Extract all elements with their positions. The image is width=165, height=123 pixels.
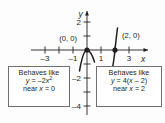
callout-left-near: near (23, 84, 39, 93)
x-tick-label-neg3: –3 (41, 54, 50, 63)
x-tick-label-1: 1 (99, 54, 104, 63)
point-marker-two-zero (112, 47, 117, 52)
callout-box-right: Behaves like y = 4(x – 2) near x = 2 (96, 66, 162, 107)
y-tick-label-2: 2 (77, 18, 82, 27)
y-axis (85, 11, 89, 115)
y-tick-label-neg2: –2 (72, 74, 81, 83)
x-tick-label-3: 3 (127, 54, 132, 63)
y-axis-label: y (77, 9, 83, 19)
x-axis-label: x (140, 54, 146, 64)
point-label-origin: (0, 0) (59, 34, 77, 43)
x-tick-label-neg1: –1 (69, 54, 78, 63)
figure-container: –3 –1 1 3 2 –2 –4 x y (0, 0) (2, 0) Beha… (0, 0, 165, 123)
callout-right-cond-val: = 2 (133, 84, 145, 93)
callout-left-condition: near x = 0 (10, 85, 68, 93)
point-marker-origin (84, 47, 89, 52)
callout-right-near: near (113, 84, 129, 93)
callout-left-cond-val: = 0 (43, 84, 55, 93)
callout-box-left: Behaves like y = –2x2 near x = 0 (8, 66, 70, 107)
callout-left-exponent: 2 (49, 74, 52, 80)
callout-right-condition: near x = 2 (98, 85, 160, 93)
point-label-two-zero: (2, 0) (122, 31, 140, 40)
y-tick-label-neg4: –4 (72, 102, 81, 111)
